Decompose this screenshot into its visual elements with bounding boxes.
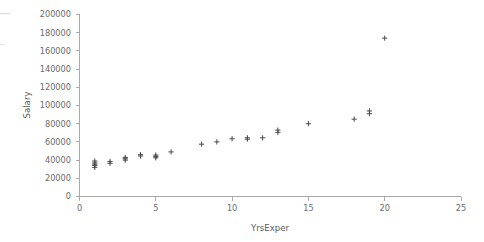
y-tick-label: 100000 (40, 100, 71, 110)
left-edge-artifact (0, 13, 10, 45)
y-tick-label: 0 (66, 191, 71, 201)
scatter-plot-figure: 0 20000 40000 60000 80000 100000 120000 … (0, 0, 484, 242)
data-point-marker (199, 142, 204, 147)
x-axis-ticks: 0 5 10 15 20 25 (77, 197, 466, 214)
y-tick-label: 40000 (45, 155, 71, 165)
y-tick-label: 160000 (40, 46, 71, 56)
x-tick-label: 0 (77, 203, 82, 213)
y-tick-label: 180000 (40, 28, 71, 38)
y-tick-label: 20000 (45, 173, 71, 183)
data-point-marker (214, 139, 219, 144)
x-tick-label: 5 (153, 203, 158, 213)
plot-canvas: 0 20000 40000 60000 80000 100000 120000 … (0, 0, 484, 242)
x-tick-label: 10 (227, 203, 237, 213)
data-point-marker (306, 121, 311, 126)
y-tick-label: 120000 (40, 82, 71, 92)
y-tick-label: 80000 (45, 119, 71, 129)
data-point-marker (260, 135, 265, 140)
y-axis-ticks: 0 20000 40000 60000 80000 100000 120000 … (40, 9, 80, 201)
data-point-marker (168, 149, 173, 154)
y-tick-label: 60000 (45, 137, 71, 147)
data-point-marker (367, 108, 372, 113)
x-tick-label: 25 (456, 203, 466, 213)
data-point-group (92, 36, 387, 170)
y-axis-title: Salary (22, 92, 32, 119)
x-tick-label: 20 (379, 203, 389, 213)
y-tick-label: 140000 (40, 64, 71, 74)
x-tick-label: 15 (303, 203, 313, 213)
y-tick-label: 200000 (40, 9, 71, 19)
data-point-marker (230, 136, 235, 141)
data-point-marker (382, 36, 387, 41)
x-axis-title: YrsExper (250, 223, 290, 233)
data-point-marker (352, 117, 357, 122)
